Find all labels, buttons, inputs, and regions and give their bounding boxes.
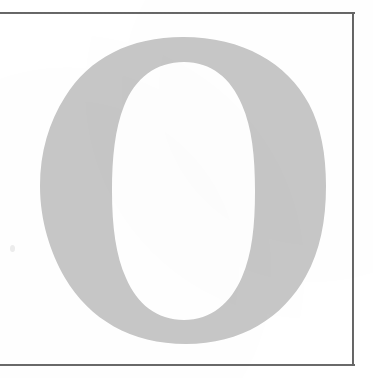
scanned-page — [0, 0, 373, 378]
letter-o-path — [40, 37, 326, 344]
scanner-speck-artifact — [10, 245, 15, 252]
capital-letter-o-glyph — [0, 0, 373, 378]
